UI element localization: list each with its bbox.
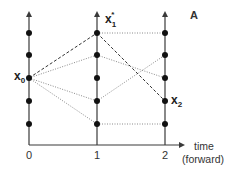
state-node bbox=[94, 75, 100, 81]
panel-label: A bbox=[190, 9, 198, 21]
optimal-transition bbox=[29, 33, 97, 78]
tick-label-2: 2 bbox=[162, 149, 168, 161]
state-node bbox=[94, 52, 100, 58]
state-node bbox=[26, 52, 32, 58]
state-node bbox=[26, 30, 32, 36]
candidate-transition bbox=[29, 78, 97, 124]
state-node bbox=[26, 75, 32, 81]
label-x2: x2 bbox=[171, 93, 183, 109]
label-x0: x0 bbox=[14, 69, 26, 85]
axis-title-forward: (forward) bbox=[182, 153, 224, 165]
state-node bbox=[94, 30, 100, 36]
label-x1-star: x1* bbox=[105, 10, 117, 29]
axis-title-time: time bbox=[194, 140, 214, 152]
state-node bbox=[26, 98, 32, 104]
state-node bbox=[94, 98, 100, 104]
candidate-transition bbox=[97, 55, 165, 101]
state-node bbox=[26, 121, 32, 127]
candidate-transition bbox=[29, 78, 97, 101]
state-node bbox=[94, 121, 100, 127]
tick-label-1: 1 bbox=[94, 149, 100, 161]
state-node bbox=[162, 30, 168, 36]
candidate-transition bbox=[97, 55, 165, 78]
state-node bbox=[162, 121, 168, 127]
state-node bbox=[162, 52, 168, 58]
state-node bbox=[162, 98, 168, 104]
optimal-transition bbox=[97, 33, 165, 101]
candidate-transition bbox=[29, 55, 97, 78]
state-node bbox=[162, 75, 168, 81]
tick-label-0: 0 bbox=[26, 149, 32, 161]
dynamic-programming-diagram: 0 1 2 time (forward) A x0 x1* x2 bbox=[0, 0, 232, 173]
